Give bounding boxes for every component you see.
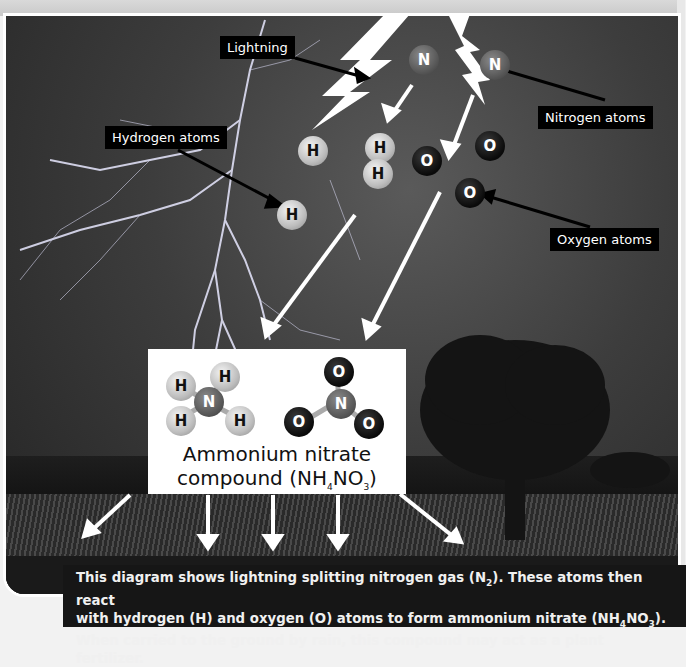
caption-part: ). <box>655 611 666 626</box>
compound-title: Ammonium nitrate compound (NH4NO3) <box>148 442 406 499</box>
nitrogen-atom: N <box>409 45 439 75</box>
oxygen-atom: O <box>455 178 485 208</box>
oxygen-atom: O <box>354 409 384 439</box>
label-oxygen-atoms: Oxygen atoms <box>550 228 659 251</box>
caption-line-3: When carried to the ground by rain, this… <box>76 632 676 667</box>
oxygen-atom: O <box>324 357 354 387</box>
hydrogen-atom: H <box>298 136 328 166</box>
label-nitrogen-atoms: Nitrogen atoms <box>538 106 653 129</box>
photo-lightning-thin <box>20 40 360 340</box>
label-lightning: Lightning <box>220 36 295 59</box>
caption-part: NO <box>626 611 648 626</box>
tree-silhouette <box>420 335 670 540</box>
hydrogen-atom: H <box>166 406 196 436</box>
label-hydrogen-atoms: Hydrogen atoms <box>105 126 227 149</box>
hydrogen-atom: H <box>277 200 307 230</box>
compound-title-line1: Ammonium nitrate <box>148 442 406 466</box>
hydrogen-atom: H <box>225 406 255 436</box>
compound-box: H H H H N O N O O Ammonium nitrate compo… <box>148 349 406 494</box>
nitrogen-atom: N <box>480 50 510 80</box>
caption-part: This diagram shows lightning splitting n… <box>76 570 486 585</box>
caption-line-2: with hydrogen (H) and oxygen (O) atoms t… <box>76 610 676 633</box>
nitrogen-atom: N <box>194 387 224 417</box>
hydrogen-atom: H <box>363 159 393 189</box>
caption-text: This diagram shows lightning splitting n… <box>66 565 686 627</box>
compound-title-line2: compound (NH4NO3) <box>148 466 406 499</box>
oxygen-atom: O <box>475 131 505 161</box>
formula-part: compound (NH <box>177 466 327 490</box>
formula-part: NO <box>333 466 364 490</box>
oxygen-atom: O <box>412 146 442 176</box>
caption-part: with hydrogen (H) and oxygen (O) atoms t… <box>76 611 620 626</box>
nitrogen-atom: N <box>326 389 356 419</box>
caption-line-1: This diagram shows lightning splitting n… <box>76 569 676 610</box>
hydrogen-atom: H <box>166 371 196 401</box>
oxygen-atom: O <box>284 407 314 437</box>
formula-part: ) <box>369 466 377 490</box>
